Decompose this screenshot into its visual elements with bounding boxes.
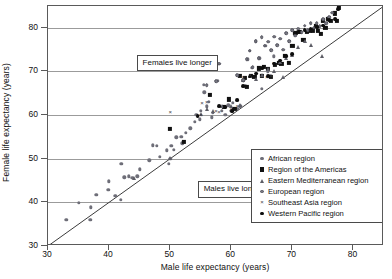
data-point: [327, 18, 331, 22]
y-tick-label-70: 70: [16, 65, 38, 75]
x-tick-label-70: 70: [278, 249, 304, 259]
data-point: [330, 11, 334, 15]
y-tick-label-40: 40: [16, 196, 38, 206]
data-point: [321, 17, 325, 21]
x-tickmark-40: [108, 245, 109, 250]
data-point: [281, 48, 285, 52]
data-point: [205, 83, 209, 87]
legend-marker-x-icon: ×: [256, 200, 268, 205]
x-tick-label-60: 60: [217, 249, 243, 259]
legend-item-0[interactable]: African region: [256, 153, 379, 164]
data-point: [248, 75, 252, 79]
data-point: [266, 67, 270, 71]
data-point: [272, 35, 276, 39]
data-point: [284, 31, 288, 35]
data-point: [278, 59, 282, 63]
data-point: [278, 37, 282, 41]
x-tickmark-60: [230, 245, 231, 250]
x-tickmark-70: [291, 245, 292, 250]
data-point: [168, 156, 172, 160]
legend-item-4[interactable]: ×Southeast Asia region: [256, 197, 379, 208]
data-point: [254, 77, 258, 81]
data-point: [303, 28, 307, 32]
data-point: [266, 74, 270, 78]
data-point: [309, 27, 313, 31]
data-point: [321, 24, 325, 28]
x-axis-title: Male life expectancy (years): [47, 262, 383, 272]
data-point: [235, 98, 239, 102]
data-point: [182, 140, 186, 144]
data-point: [248, 49, 252, 53]
legend-marker-circle-icon: [256, 212, 268, 216]
y-tick-label-80: 80: [16, 22, 38, 32]
legend-item-2[interactable]: Eastern Mediterranean region: [256, 175, 379, 186]
data-point: ×: [235, 104, 240, 109]
data-point: [242, 84, 246, 88]
x-tick-label-30: 30: [34, 249, 60, 259]
data-point: [132, 176, 136, 180]
data-point: [196, 114, 200, 118]
x-tickmark-50: [169, 245, 170, 250]
data-point: [319, 32, 323, 36]
data-point: [290, 44, 294, 48]
data-point: [263, 44, 267, 48]
scatter-chart-figure: Female life expectancy (years) Male life…: [0, 0, 392, 279]
legend-label: European region: [268, 186, 324, 197]
data-point: [315, 25, 319, 29]
x-tickmark-80: [352, 245, 353, 250]
data-point: [281, 75, 285, 79]
data-point: [288, 39, 292, 43]
data-point: [272, 62, 276, 66]
data-point: [254, 40, 258, 44]
data-point: [257, 57, 261, 61]
data-point: [275, 43, 279, 47]
data-point: [309, 22, 313, 26]
data-point: [291, 28, 295, 32]
legend-item-1[interactable]: Region of the Americas: [256, 164, 379, 175]
data-point: [266, 40, 270, 44]
legend-marker-triangle-icon: [256, 179, 268, 183]
x-tick-label-50: 50: [156, 249, 182, 259]
data-point: [214, 79, 218, 83]
legend-marker-euro-dot-icon: [256, 190, 268, 194]
x-tick-label-80: 80: [339, 249, 365, 259]
data-point: [303, 39, 307, 43]
x-tick-label-40: 40: [95, 249, 121, 259]
data-point: [223, 105, 227, 109]
y-tick-label-50: 50: [16, 153, 38, 163]
data-point: ×: [204, 100, 209, 105]
data-point: ×: [217, 109, 222, 114]
data-point: [205, 107, 209, 111]
data-point: ×: [241, 74, 246, 79]
legend-marker-dot-icon: [256, 157, 268, 160]
data-point: [260, 66, 264, 70]
data-point: [245, 57, 249, 61]
chart-legend: African regionRegion of the AmericasEast…: [251, 149, 383, 223]
data-point: [231, 109, 235, 113]
data-point: [168, 127, 172, 131]
legend-label: Region of the Americas: [268, 164, 347, 175]
data-point: [296, 45, 300, 49]
data-point: [303, 24, 307, 28]
legend-item-3[interactable]: European region: [256, 186, 379, 197]
data-point: [297, 30, 301, 34]
data-point: [320, 54, 324, 58]
plot-area: ×××××××××××× Females live longer Males l…: [47, 5, 383, 245]
data-point: ×: [168, 110, 173, 115]
data-point: [217, 104, 221, 108]
legend-marker-square-icon: [256, 167, 268, 171]
data-point: [251, 65, 255, 69]
data-point: [269, 48, 273, 52]
y-tick-label-60: 60: [16, 109, 38, 119]
legend-item-5[interactable]: Western Pacific region: [256, 208, 379, 219]
legend-label: Western Pacific region: [268, 208, 344, 219]
data-point: [236, 73, 240, 77]
legend-label: Eastern Mediterranean region: [268, 175, 368, 186]
data-point: [254, 72, 258, 76]
legend-label: Southeast Asia region: [268, 197, 342, 208]
data-point: [290, 52, 294, 56]
data-point: [260, 73, 264, 77]
data-point: [309, 43, 313, 47]
data-point: [333, 17, 337, 21]
x-tickmark-30: [47, 245, 48, 250]
